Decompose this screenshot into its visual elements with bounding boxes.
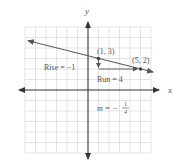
x-axis-label: x [167,85,172,95]
svg-text:1: 1 [124,101,127,107]
svg-text:4: 4 [124,109,127,115]
rise-label: Rise = −1 [44,63,75,72]
point-5-2 [139,67,143,71]
point-1-3-label: (1, 3) [97,47,115,56]
run-label: Run = 4 [97,75,123,84]
point-1-3 [97,57,101,61]
svg-text:m = −: m = − [97,104,118,113]
axes [19,22,159,159]
y-axis-label: y [84,6,89,16]
point-5-2-label: (5, 2) [132,56,150,65]
slope-label: m = − 1 4 [97,101,129,115]
coordinate-plane: x y (1, 3) (5, 2) Rise = −1 Run = 4 m = … [0,0,178,163]
